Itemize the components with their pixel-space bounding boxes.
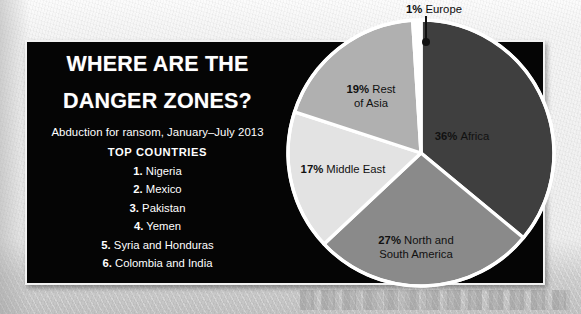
country-list-item: 2. Mexico [101, 183, 213, 195]
country-list-item: 5. Syria and Honduras [101, 239, 213, 251]
slice-label: 36% Africa [435, 130, 490, 142]
infographic-text-column: WHERE ARE THE DANGER ZONES? Abduction fo… [25, 40, 290, 285]
pie-chart: 1% Europe 36% Africa27% North andSouth A… [286, 18, 556, 288]
ghost-print-showthrough [300, 290, 570, 310]
country-name: Nigeria [143, 165, 182, 177]
country-name: Mexico [143, 183, 182, 195]
country-name: Syria and Honduras [111, 239, 214, 251]
country-rank: 4. [134, 220, 143, 232]
country-rank: 3. [130, 202, 139, 214]
callout-dot [422, 38, 430, 46]
country-list-item: 6. Colombia and India [101, 257, 213, 269]
country-rank: 1. [133, 165, 142, 177]
country-name: Colombia and India [112, 257, 212, 269]
page-title-line-2: DANGER ZONES? [63, 89, 252, 114]
country-rank: 2. [133, 183, 142, 195]
country-name: Yemen [143, 220, 181, 232]
country-name: Pakistan [139, 202, 185, 214]
slice-label-europe: 1% Europe [406, 3, 462, 15]
page-title-line-1: WHERE ARE THE [66, 52, 248, 77]
country-list-item: 1. Nigeria [101, 165, 213, 177]
top-countries-heading: TOP COUNTRIES [108, 146, 207, 158]
top-countries-list: 1. Nigeria2. Mexico3. Pakistan4. Yemen5.… [101, 158, 213, 269]
country-rank: 6. [103, 257, 112, 269]
country-rank: 5. [101, 239, 110, 251]
slice-label: 17% Middle East [301, 163, 387, 175]
country-list-item: 4. Yemen [101, 220, 213, 232]
subtitle: Abduction for ransom, January–July 2013 [51, 126, 263, 138]
country-list-item: 3. Pakistan [101, 202, 213, 214]
